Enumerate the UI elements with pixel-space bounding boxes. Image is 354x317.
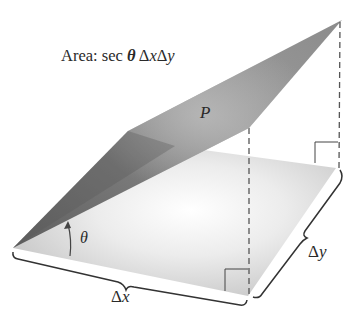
surface-area-diagram: Area: sec θ ΔxΔy P θ Δx Δy — [0, 0, 354, 317]
title-x: x — [149, 46, 156, 65]
delta-x-var: x — [122, 287, 130, 306]
angle-label: θ — [80, 229, 88, 247]
title-delta-x: Δ — [136, 46, 150, 65]
title-theta: θ — [127, 46, 136, 65]
title-prefix: Area: sec — [61, 46, 127, 65]
delta-y-var: y — [319, 242, 327, 261]
area-formula-title: Area: sec θ ΔxΔy — [61, 46, 175, 66]
diagram-canvas — [0, 0, 354, 317]
title-delta-y: Δ — [157, 46, 168, 65]
dashed-vertical-back — [339, 22, 340, 168]
delta-x-symbol: Δ — [111, 287, 122, 306]
right-angle-marker-back — [315, 142, 338, 163]
delta-y-label: Δy — [308, 242, 326, 262]
plane-point-label: P — [200, 103, 210, 123]
title-y: y — [167, 46, 174, 65]
delta-x-label: Δx — [111, 287, 129, 307]
delta-y-symbol: Δ — [308, 242, 319, 261]
